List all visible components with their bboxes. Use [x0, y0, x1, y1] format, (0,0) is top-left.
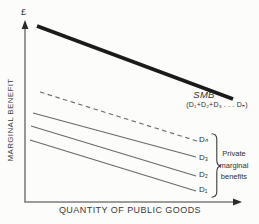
smb-formula-label: (D₁+D₂+D₃ . . . Dₙ)	[186, 101, 247, 109]
y-axis-label: MARGINAL BENEFIT	[6, 78, 15, 161]
curve-label-d1: D₁	[199, 185, 207, 194]
curve-label-d2: D₂	[199, 170, 208, 179]
curve-label-d3: D₃	[199, 153, 208, 162]
x-axis-label: QUANTITY OF PUBLIC GOODS	[59, 205, 201, 215]
curve-d1	[30, 140, 196, 191]
annotation-line-2: marginal	[220, 160, 249, 172]
y-axis-arrow-icon	[22, 20, 29, 29]
annotation-line-3: benefits	[220, 171, 249, 183]
private-benefits-annotation: Private marginal benefits	[220, 148, 249, 183]
smb-curve-label: SMB	[193, 89, 215, 100]
plot-canvas	[0, 0, 259, 224]
x-axis-arrow-icon	[233, 199, 242, 206]
curve-dn	[40, 92, 197, 141]
curve-label-dn: Dₙ	[199, 135, 208, 144]
marginal-benefit-figure: £ MARGINAL BENEFIT QUANTITY OF PUBLIC GO…	[0, 0, 259, 224]
curve-d3	[33, 113, 196, 157]
y-axis-unit-label: £	[21, 7, 26, 17]
annotation-line-1: Private	[220, 148, 249, 160]
